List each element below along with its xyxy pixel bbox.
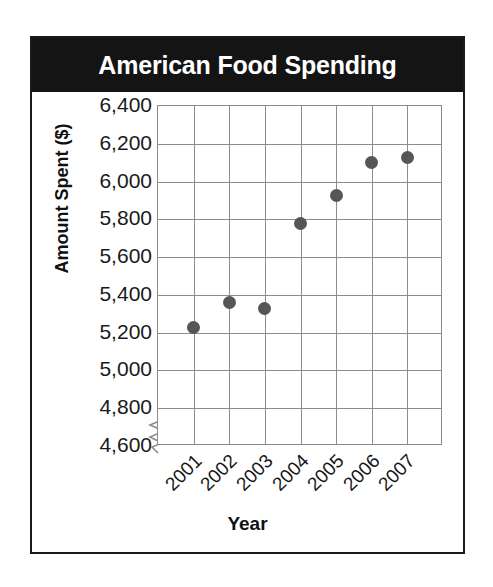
y-axis-tick-label: 5,000: [68, 357, 152, 381]
grid-line-vertical: [336, 106, 337, 444]
grid-line-horizontal: [158, 144, 441, 145]
y-axis-tick-label: 5,400: [68, 282, 152, 306]
grid-line-vertical: [229, 106, 230, 444]
grid-line-horizontal: [158, 408, 441, 409]
y-axis-tick-label: 5,800: [68, 206, 152, 230]
grid-line-horizontal: [158, 333, 441, 334]
y-axis-tick-label: 6,000: [68, 169, 152, 193]
data-point-marker: [294, 217, 307, 230]
grid-line-horizontal: [158, 257, 441, 258]
grid-line-vertical: [265, 106, 266, 444]
grid-line-horizontal: [158, 295, 441, 296]
data-point-marker: [187, 321, 200, 334]
y-axis-tick-label: 6,200: [68, 131, 152, 155]
grid-line-horizontal: [158, 370, 441, 371]
grid-line-vertical: [194, 106, 195, 444]
y-axis-tick-labels: 6,4006,2006,0005,8005,6005,4005,2005,000…: [58, 105, 152, 480]
y-axis-tick-label: 4,600: [68, 433, 152, 457]
grid-line-horizontal: [158, 182, 441, 183]
plot-area: [157, 105, 442, 445]
chart-title: American Food Spending: [98, 51, 396, 80]
grid-line-vertical: [301, 106, 302, 444]
data-point-marker: [401, 151, 414, 164]
y-axis-tick-label: 6,400: [68, 93, 152, 117]
data-point-marker: [258, 302, 271, 315]
data-point-marker: [223, 296, 236, 309]
y-axis-tick-label: 5,200: [68, 320, 152, 344]
x-axis-tick-labels: 2001200220032004200520062007: [157, 450, 442, 520]
y-axis-tick-label: 5,600: [68, 244, 152, 268]
title-banner: American Food Spending: [32, 38, 463, 92]
x-axis-title: Year: [32, 513, 463, 535]
data-point-marker: [330, 189, 343, 202]
data-point-marker: [365, 156, 378, 169]
chart-card: American Food Spending Amount Spent ($) …: [30, 36, 465, 554]
y-axis-tick-label: 4,800: [68, 395, 152, 419]
